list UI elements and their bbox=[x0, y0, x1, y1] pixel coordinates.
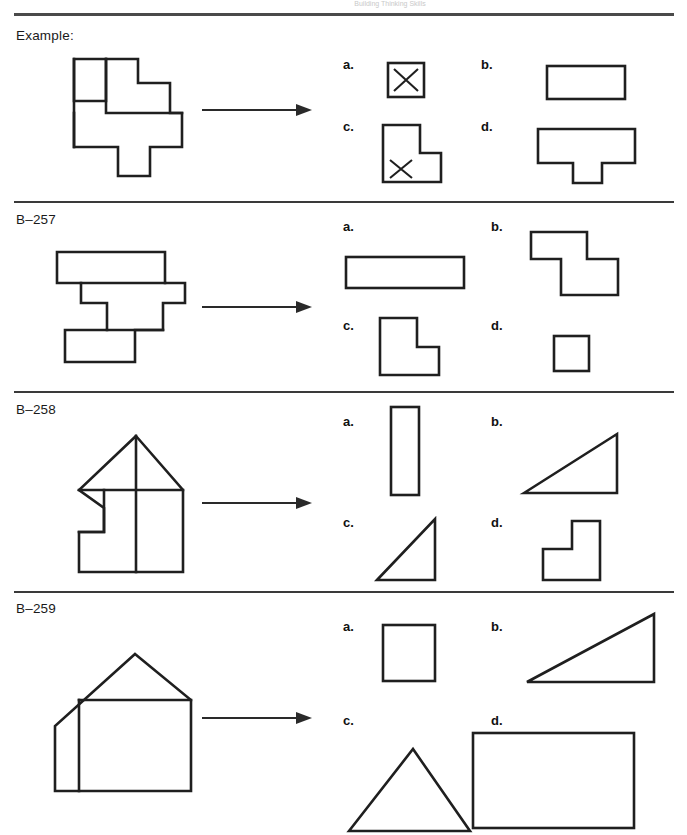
section-label-b259: B–259 bbox=[16, 601, 56, 616]
option-label-example-a: a. bbox=[343, 57, 354, 72]
option-label-b257-d: d. bbox=[491, 318, 503, 333]
option-shape-example-d bbox=[535, 126, 640, 186]
option-shape-b258-d bbox=[540, 518, 610, 584]
option-shape-example-b bbox=[545, 64, 630, 104]
option-shape-b258-c bbox=[373, 515, 445, 587]
option-label-b257-b: b. bbox=[491, 219, 503, 234]
section-label-b258: B–258 bbox=[16, 402, 56, 417]
section-divider-b258 bbox=[14, 391, 674, 393]
arrow-icon-b259 bbox=[200, 708, 315, 728]
option-label-example-b: b. bbox=[481, 57, 493, 72]
option-shape-b258-b bbox=[520, 430, 630, 500]
worksheet-page: Building Thinking Skills Example: a. b. … bbox=[0, 0, 687, 835]
section-label-example: Example: bbox=[16, 28, 74, 43]
option-label-b258-b: b. bbox=[491, 414, 503, 429]
option-shape-b259-a bbox=[380, 622, 442, 686]
option-label-b259-d: d. bbox=[491, 713, 503, 728]
option-label-b257-a: a. bbox=[343, 219, 354, 234]
option-label-example-d: d. bbox=[481, 119, 493, 134]
arrow-icon-b258 bbox=[200, 493, 315, 513]
prompt-shape-b258 bbox=[75, 432, 190, 577]
section-divider-top bbox=[14, 13, 674, 16]
option-shape-b257-d bbox=[552, 334, 594, 376]
option-shape-b257-c bbox=[377, 315, 443, 379]
section-divider-b259 bbox=[14, 591, 674, 593]
option-shape-b259-d bbox=[470, 730, 645, 835]
option-label-b259-c: c. bbox=[343, 713, 354, 728]
section-label-b257: B–257 bbox=[16, 212, 56, 227]
option-shape-b258-a bbox=[388, 404, 426, 500]
option-shape-b259-c bbox=[345, 745, 475, 835]
option-shape-example-a bbox=[385, 60, 431, 104]
option-shape-b257-a bbox=[344, 255, 470, 294]
option-shape-b259-b bbox=[523, 610, 663, 690]
prompt-shape-b259 bbox=[45, 650, 205, 810]
option-label-b259-a: a. bbox=[343, 619, 354, 634]
prompt-shape-example bbox=[70, 55, 200, 180]
option-label-b257-c: c. bbox=[343, 318, 354, 333]
option-label-b258-c: c. bbox=[343, 515, 354, 530]
prompt-shape-b257 bbox=[55, 250, 190, 365]
option-label-b258-a: a. bbox=[343, 414, 354, 429]
option-label-b259-b: b. bbox=[491, 619, 503, 634]
option-shape-example-c bbox=[380, 122, 446, 186]
option-label-b258-d: d. bbox=[491, 515, 503, 530]
arrow-icon-example bbox=[200, 100, 315, 120]
page-header-faint: Building Thinking Skills bbox=[180, 0, 600, 10]
arrow-icon-b257 bbox=[200, 297, 315, 317]
option-label-example-c: c. bbox=[343, 119, 354, 134]
section-divider-b257 bbox=[14, 201, 674, 203]
option-shape-b257-b bbox=[528, 229, 623, 301]
